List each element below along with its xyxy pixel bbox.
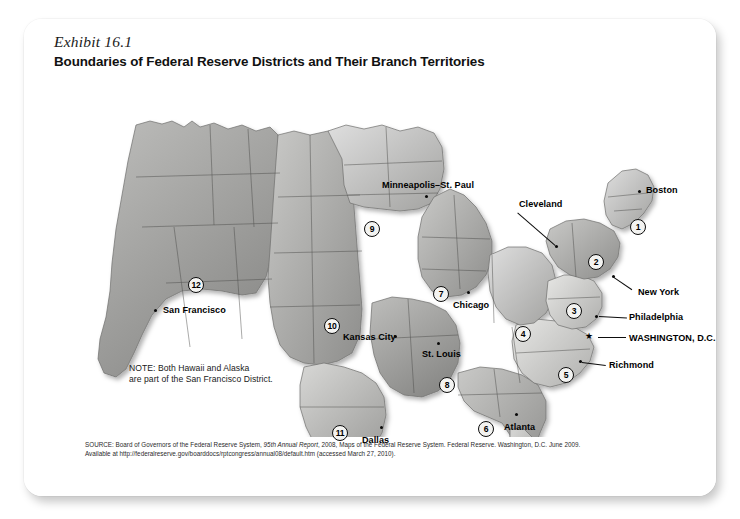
- source-line-1: SOURCE: Board of Governors of the Federa…: [85, 440, 685, 449]
- source-line-2: Available at http://federalreserve.gov/b…: [85, 449, 685, 458]
- city-label-boston: Boston: [646, 185, 678, 195]
- leader-line-washington: [598, 337, 626, 338]
- district-region-1: [604, 169, 654, 229]
- page-title: Boundaries of Federal Reserve Districts …: [54, 54, 485, 69]
- city-label-chicago: Chicago: [453, 300, 489, 310]
- city-label-richmond: Richmond: [609, 360, 654, 370]
- city-label-kansas-city: Kansas City: [343, 332, 396, 342]
- source-line-1-b: , 2008, Maps of the Federal Reserve Syst…: [318, 441, 580, 448]
- district-badge-2[interactable]: 2: [588, 254, 604, 270]
- district-badge-10[interactable]: 10: [324, 318, 340, 334]
- exhibit-label: Exhibit 16.1: [54, 33, 132, 51]
- district-badge-12[interactable]: 12: [188, 277, 204, 293]
- district-badge-1[interactable]: 1: [630, 219, 646, 235]
- source-report-title: 95th Annual Report: [264, 441, 318, 448]
- district-region-3: [546, 275, 602, 329]
- screenshot-root: Exhibit 16.1 Boundaries of Federal Reser…: [0, 0, 740, 519]
- district-region-2: [546, 219, 620, 279]
- source-line-1-a: SOURCE: Board of Governors of the Federa…: [85, 441, 264, 448]
- city-label-minneapolis: Minneapolis–St. Paul: [382, 180, 474, 190]
- city-label-cleveland: Cleveland: [519, 199, 562, 209]
- district-badge-11[interactable]: 11: [332, 425, 348, 441]
- district-badge-6[interactable]: 6: [478, 421, 494, 437]
- city-label-philadelphia: Philadelphia: [629, 312, 683, 322]
- map-note: NOTE: Both Hawaii and Alaska are part of…: [129, 363, 273, 384]
- district-badge-8[interactable]: 8: [439, 377, 455, 393]
- district-badge-9[interactable]: 9: [364, 221, 380, 237]
- district-region-7: [418, 189, 492, 297]
- district-badge-3[interactable]: 3: [566, 303, 582, 319]
- city-label-st-louis: St. Louis: [422, 349, 461, 359]
- district-region-4: [488, 247, 556, 325]
- city-label-san-francisco: San Francisco: [163, 305, 226, 315]
- district-badge-5[interactable]: 5: [558, 367, 574, 383]
- federal-reserve-district-map: NOTE: Both Hawaii and Alaska are part of…: [42, 77, 702, 437]
- city-label-washington-dc: WASHINGTON, D.C.: [629, 333, 716, 343]
- city-label-new-york: New York: [638, 287, 679, 297]
- source-citation: SOURCE: Board of Governors of the Federa…: [85, 440, 685, 459]
- washington-dc-star: ★: [585, 332, 593, 341]
- district-badge-4[interactable]: 4: [515, 326, 531, 342]
- district-badge-7[interactable]: 7: [433, 286, 449, 302]
- city-label-atlanta: Atlanta: [504, 422, 535, 432]
- exhibit-card: Exhibit 16.1 Boundaries of Federal Reser…: [24, 19, 716, 496]
